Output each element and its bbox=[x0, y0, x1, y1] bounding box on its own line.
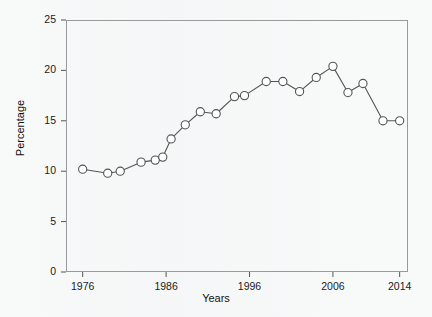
y-tick-label: 10 bbox=[28, 164, 56, 176]
data-point-marker bbox=[116, 167, 124, 175]
data-point-marker bbox=[396, 117, 404, 125]
y-tick-label: 5 bbox=[28, 215, 56, 227]
data-markers bbox=[79, 62, 404, 177]
data-point-marker bbox=[79, 165, 87, 173]
x-axis-ticks bbox=[83, 272, 400, 277]
data-point-marker bbox=[295, 87, 303, 95]
data-point-marker bbox=[240, 92, 248, 100]
data-point-marker bbox=[329, 62, 337, 70]
data-point-marker bbox=[196, 108, 204, 116]
data-point-marker bbox=[159, 153, 167, 161]
x-tick-label: 2006 bbox=[308, 280, 358, 292]
data-point-marker bbox=[312, 73, 320, 81]
data-line bbox=[83, 66, 400, 173]
data-point-marker bbox=[137, 158, 145, 166]
y-tick-label: 25 bbox=[28, 13, 56, 25]
y-axis-title: Percentage bbox=[14, 78, 26, 178]
y-axis-ticks bbox=[61, 20, 66, 272]
x-tick-label: 1996 bbox=[225, 280, 275, 292]
y-tick-label: 0 bbox=[28, 265, 56, 277]
data-point-marker bbox=[104, 169, 112, 177]
x-tick-label: 1976 bbox=[58, 280, 108, 292]
x-axis-title: Years bbox=[0, 292, 432, 304]
y-tick-label: 15 bbox=[28, 114, 56, 126]
data-point-marker bbox=[262, 77, 270, 85]
x-tick-label: 2014 bbox=[375, 280, 425, 292]
data-point-marker bbox=[230, 93, 238, 101]
data-point-marker bbox=[344, 88, 352, 96]
y-tick-label: 20 bbox=[28, 63, 56, 75]
data-point-marker bbox=[359, 79, 367, 87]
chart-figure: 0510152025 19761986199620062014 Percenta… bbox=[0, 0, 432, 317]
data-point-marker bbox=[181, 121, 189, 129]
data-point-marker bbox=[379, 117, 387, 125]
data-point-marker bbox=[279, 77, 287, 85]
data-point-marker bbox=[167, 135, 175, 143]
data-point-marker bbox=[212, 110, 220, 118]
x-tick-label: 1986 bbox=[141, 280, 191, 292]
chart-canvas bbox=[0, 0, 432, 317]
